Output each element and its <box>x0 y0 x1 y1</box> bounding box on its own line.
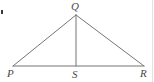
vertex-label-q: Q <box>71 1 79 12</box>
vertex-label-s: S <box>72 69 78 80</box>
scan-artifact-edge <box>152 0 153 82</box>
triangle-outline <box>13 15 144 66</box>
segment-pq <box>13 15 76 66</box>
segment-qr <box>76 15 144 66</box>
scan-artifact-speck <box>1 10 3 14</box>
geometry-figure: Q P S R <box>0 0 154 82</box>
vertex-label-p: P <box>7 68 14 79</box>
vertex-label-r: R <box>140 68 147 79</box>
